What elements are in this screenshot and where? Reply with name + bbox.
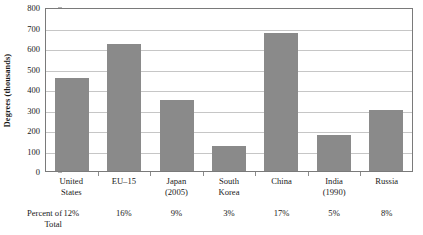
percent-value-6: 8% — [361, 208, 413, 222]
x-label-2-line2: (2005) — [150, 187, 202, 198]
y-tick-label-800: 800 — [14, 4, 40, 13]
percent-value-3: 3% — [203, 208, 255, 222]
bar-chart-figure: Degrees (thousands) 80070060050040030020… — [0, 0, 423, 235]
x-label-5-line1: India — [325, 176, 343, 186]
plot-area — [45, 8, 413, 172]
y-tick-label-700: 700 — [14, 24, 40, 33]
bar-3 — [212, 146, 246, 171]
x-label-1: EU–15 — [98, 176, 150, 206]
x-label-3-line1: South — [219, 176, 239, 186]
bar-0 — [55, 78, 89, 171]
percent-value-5: 5% — [308, 208, 360, 222]
x-label-6: Russia — [361, 176, 413, 206]
y-tick-label-500: 500 — [14, 65, 40, 74]
bar-5 — [317, 135, 351, 171]
bar-6 — [369, 110, 403, 171]
x-label-0-line1: United — [60, 176, 83, 186]
x-label-6-line1: Russia — [375, 176, 398, 186]
y-tick-label-400: 400 — [14, 86, 40, 95]
x-label-0: UnitedStates — [45, 176, 97, 206]
x-label-2: Japan(2005) — [150, 176, 202, 206]
y-tick-label-200: 200 — [14, 127, 40, 136]
x-label-1-line1: EU–15 — [112, 176, 136, 186]
bar-2 — [160, 100, 194, 171]
x-axis-category-labels: UnitedStatesEU–15Japan(2005)SouthKoreaCh… — [45, 176, 413, 206]
y-tick-label-100: 100 — [14, 147, 40, 156]
percent-of-total-values: 12%16%9%3%17%5%8% — [45, 208, 413, 222]
y-axis-tick-labels: 8007006005004003002001000 — [16, 8, 43, 172]
y-tick-label-300: 300 — [14, 106, 40, 115]
bar-series — [46, 9, 412, 171]
x-label-4: China — [256, 176, 308, 206]
x-label-0-line2: States — [45, 187, 97, 198]
percent-value-2: 9% — [150, 208, 202, 222]
x-label-2-line1: Japan — [167, 176, 187, 186]
bar-4 — [264, 33, 298, 171]
percent-value-0: 12% — [45, 208, 97, 222]
x-label-4-line1: China — [271, 176, 292, 186]
x-label-5-line2: (1990) — [308, 187, 360, 198]
x-label-3: SouthKorea — [203, 176, 255, 206]
bar-1 — [107, 44, 141, 172]
y-tick-label-0: 0 — [14, 168, 40, 177]
percent-value-1: 16% — [98, 208, 150, 222]
x-label-5: India(1990) — [308, 176, 360, 206]
y-tick-label-600: 600 — [14, 45, 40, 54]
y-axis-title-text: Degrees (thousands) — [4, 53, 13, 126]
x-label-3-line2: Korea — [203, 187, 255, 198]
percent-value-4: 17% — [256, 208, 308, 222]
